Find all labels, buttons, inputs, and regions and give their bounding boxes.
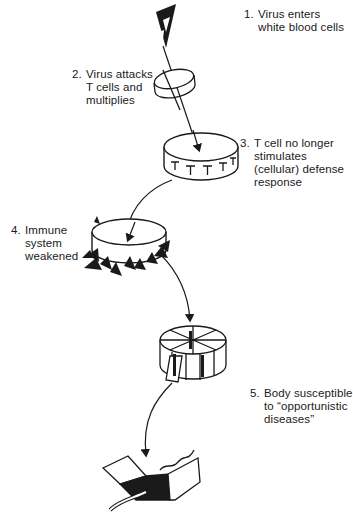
step-5-line-3: diseases” xyxy=(264,413,353,426)
step-3-line-1: T cell no longer xyxy=(254,137,344,150)
step-3-line-4: response xyxy=(254,176,344,189)
step-3-line-3: (cellular) defense xyxy=(254,163,344,176)
step-3-number: 3. xyxy=(240,137,250,150)
step-2-line-3: multiplies xyxy=(86,94,153,107)
step-5-line-1: Body susceptible xyxy=(264,387,353,400)
step-3-line-2: stimulates xyxy=(254,150,344,163)
step-4-line-2: system xyxy=(25,237,78,250)
step-2-line-2: T cells and xyxy=(86,81,153,94)
virus-icon xyxy=(155,4,176,48)
step-5-label: 5. Body susceptible to “opportunistic di… xyxy=(250,387,353,426)
torn-body-icon xyxy=(103,450,200,510)
step-5-number: 5. xyxy=(250,387,260,400)
connector-5-final xyxy=(145,383,172,455)
step-1-number: 1. xyxy=(244,8,254,21)
step-5-line-2: to “opportunistic xyxy=(264,400,353,413)
step-4-number: 4. xyxy=(11,224,21,237)
step-1-line-1: Virus enters xyxy=(258,8,344,21)
step-2-line-1: Virus attacks xyxy=(86,68,153,81)
broken-disk-icon xyxy=(160,326,226,382)
t-cell-disk-icon xyxy=(164,133,238,180)
step-4-label: 4. Immune system weakened xyxy=(11,224,78,263)
ring-cell-icon xyxy=(153,66,196,110)
step-1-line-2: white blood cells xyxy=(258,21,344,34)
step-4-line-3: weakened xyxy=(25,250,78,263)
spiked-disk-icon xyxy=(82,216,170,276)
step-4-line-1: Immune xyxy=(25,224,78,237)
step-2-number: 2. xyxy=(72,68,82,81)
connector-4-5 xyxy=(158,252,190,320)
step-2-label: 2. Virus attacks T cells and multiplies xyxy=(72,68,153,107)
step-3-label: 3. T cell no longer stimulates (cellular… xyxy=(240,137,344,189)
step-1-label: 1. Virus enters white blood cells xyxy=(244,8,344,34)
